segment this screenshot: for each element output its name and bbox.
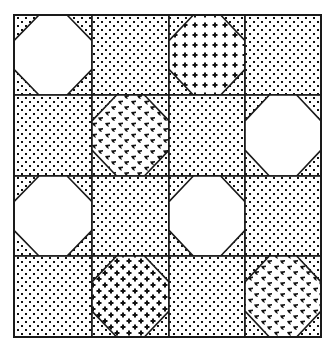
square-block-dots bbox=[14, 95, 92, 176]
quilt-blocks bbox=[14, 15, 321, 337]
quilt-block-r2-c3 bbox=[169, 95, 245, 176]
square-block-dots bbox=[245, 15, 321, 95]
quilt-block-r1-c4 bbox=[245, 15, 321, 95]
quilt-block-r4-c4 bbox=[245, 256, 321, 337]
quilt-block-r1-c3 bbox=[169, 15, 245, 95]
square-block-dots bbox=[92, 176, 169, 256]
quilt-block-r1-c2 bbox=[92, 15, 169, 95]
quilt-block-r2-c2 bbox=[92, 95, 169, 176]
quilt-block-r4-c1 bbox=[14, 256, 92, 337]
square-block-dots bbox=[169, 256, 245, 337]
quilt-block-r3-c2 bbox=[92, 176, 169, 256]
square-block-dots bbox=[92, 15, 169, 95]
quilt-diagram bbox=[0, 0, 334, 348]
quilt-block-r2-c4 bbox=[245, 95, 321, 176]
quilt-block-r2-c1 bbox=[14, 95, 92, 176]
quilt-block-r3-c3 bbox=[169, 176, 245, 256]
quilt-block-r3-c4 bbox=[245, 176, 321, 256]
quilt-block-r1-c1 bbox=[14, 15, 92, 95]
quilt-block-r4-c2 bbox=[92, 256, 169, 337]
square-block-dots bbox=[14, 256, 92, 337]
quilt-block-r4-c3 bbox=[169, 256, 245, 337]
square-block-dots bbox=[169, 95, 245, 176]
quilt-block-r3-c1 bbox=[14, 176, 92, 256]
square-block-dots bbox=[245, 176, 321, 256]
